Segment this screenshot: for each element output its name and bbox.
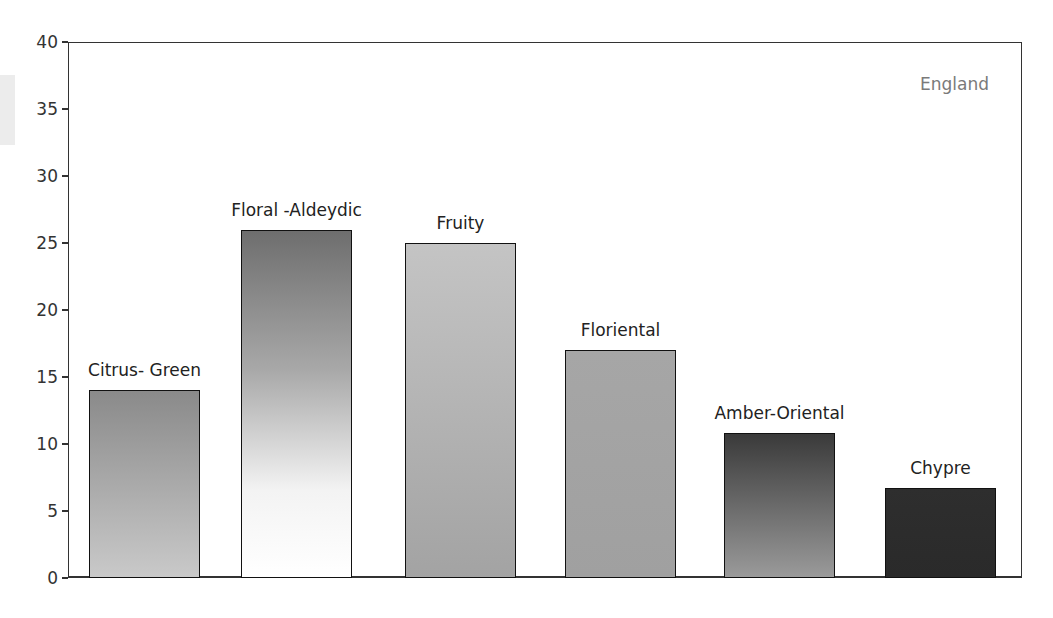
bar-citrus-green [89, 390, 200, 578]
y-tick-label: 10 [20, 435, 58, 453]
y-tick [62, 175, 68, 177]
y-tick [62, 443, 68, 445]
bar-amber-oriental [724, 433, 835, 578]
y-tick-label: 0 [20, 569, 58, 587]
y-tick-label: 40 [20, 33, 58, 51]
y-tick [62, 510, 68, 512]
bar-label: Fruity [365, 213, 556, 233]
bar-label: Citrus- Green [49, 360, 240, 380]
region-annotation: England [920, 74, 989, 94]
plot-area [68, 42, 1022, 578]
y-tick-label: 20 [20, 301, 58, 319]
bar-label: Floral -Aldeydic [201, 200, 392, 220]
bar-label: Chypre [845, 458, 1036, 478]
y-tick-label: 30 [20, 167, 58, 185]
bar-floriental [565, 350, 676, 578]
y-tick-label: 5 [20, 502, 58, 520]
bar-label: Amber-Oriental [684, 403, 875, 423]
y-tick [62, 108, 68, 110]
bar-fruity [405, 243, 516, 578]
y-tick [62, 242, 68, 244]
y-tick-label: 25 [20, 234, 58, 252]
bar-chypre [885, 488, 996, 578]
y-tick-label: 35 [20, 100, 58, 118]
bar-floral-aldeydic [241, 230, 352, 578]
background-artifact [0, 75, 15, 145]
y-tick [62, 577, 68, 579]
bar-label: Floriental [525, 320, 716, 340]
y-tick [62, 309, 68, 311]
y-tick [62, 41, 68, 43]
